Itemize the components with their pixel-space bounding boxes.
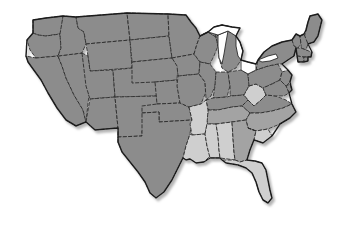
state-massachusetts[interactable] — [296, 48, 312, 57]
state-north-dakota[interactable] — [127, 13, 169, 40]
state-kansas[interactable] — [155, 80, 180, 104]
state-wyoming[interactable] — [86, 40, 132, 71]
state-south-dakota[interactable] — [130, 36, 172, 62]
state-missouri[interactable] — [177, 74, 206, 107]
state-oregon[interactable] — [27, 33, 61, 58]
state-nebraska[interactable] — [132, 58, 178, 83]
us-map-figure — [0, 0, 344, 229]
state-arizona[interactable] — [86, 97, 118, 130]
us-map-svg — [0, 0, 344, 229]
map-body — [26, 13, 322, 203]
